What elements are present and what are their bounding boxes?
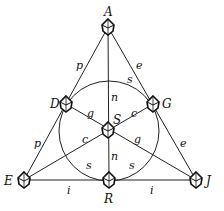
edge-label: p: [76, 59, 83, 72]
diagram-canvas: ppeeiinnggccsssADGSERJ: [0, 0, 224, 211]
fano-diagram: ppeeiinnggccsssADGSERJ: [0, 0, 224, 211]
point-label-A: A: [103, 5, 113, 19]
edge-label: s: [129, 159, 135, 172]
point-label-J: J: [203, 174, 212, 188]
point-label-R: R: [103, 192, 113, 206]
point-label-D: D: [49, 97, 60, 111]
edge-label: c: [131, 107, 137, 120]
edge-label: n: [111, 150, 118, 163]
point-label-S: S: [113, 113, 121, 127]
edge-label: c: [82, 133, 88, 146]
point-D-marker: [60, 96, 72, 112]
edge-label: e: [136, 59, 143, 72]
edge-label: g: [87, 107, 94, 120]
point-J-marker: [190, 172, 202, 188]
line-A-R: [108, 27, 109, 180]
point-A-marker: [102, 19, 114, 35]
edge-label: i: [150, 184, 154, 197]
edge-label: g: [134, 133, 141, 146]
edge-label: n: [111, 91, 118, 104]
point-label-E: E: [3, 174, 13, 188]
edge-label: s: [127, 73, 133, 86]
point-R-marker: [103, 172, 115, 188]
point-label-G: G: [162, 97, 172, 111]
edge-label: i: [67, 184, 71, 197]
edge-label: p: [34, 137, 41, 150]
edge-label: e: [180, 137, 187, 150]
point-E-marker: [18, 172, 30, 188]
edge-label: s: [86, 159, 92, 172]
